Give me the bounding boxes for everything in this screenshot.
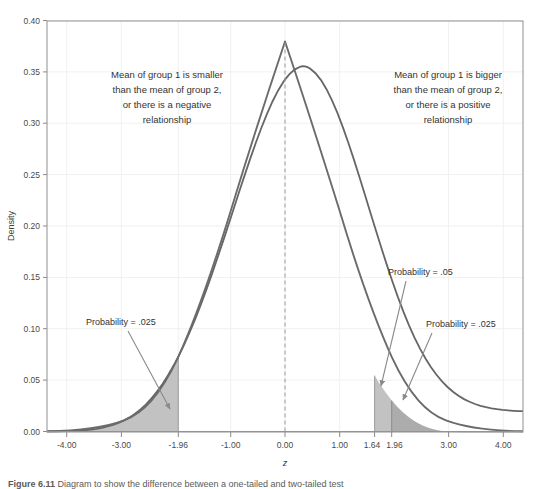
x-axis-ticks [67, 432, 504, 437]
figure-caption-text: Figure 6.11 Diagram to show the differen… [8, 479, 344, 489]
x-tick-label: 1.64 [364, 440, 381, 450]
left-annotation-line: than the mean of group 2, [113, 84, 222, 95]
y-tick-label: 0.15 [23, 272, 40, 282]
x-tick-label: -1.00 [221, 440, 241, 450]
x-axis-title: z [282, 458, 288, 468]
y-tick-label: 0.35 [23, 67, 40, 77]
caption-number: 6.11 [38, 479, 55, 489]
right-annotation-line: Mean of group 1 is bigger [394, 69, 502, 80]
x-tick-label: 1.96 [386, 440, 403, 450]
right-prob-05-label: Probability = .05 [388, 267, 453, 277]
y-tick-label: 0.20 [23, 221, 40, 231]
y-axis-title: Density [6, 210, 16, 241]
y-tick-label: 0.25 [23, 170, 40, 180]
figure-container: 0.00 0.05 0.10 0.15 0.20 0.25 0.30 0.35 … [0, 0, 544, 489]
caption-body: Diagram to show the difference between a… [58, 479, 345, 489]
right-annotation-line: than the mean of group 2, [394, 84, 503, 95]
x-tick-label: 3.00 [440, 440, 457, 450]
x-tick-label: 1.00 [331, 440, 348, 450]
y-axis-ticks [43, 21, 47, 432]
left-annotation-line: relationship [143, 114, 192, 125]
x-tick-label: 4.00 [495, 440, 512, 450]
left-annotation-line: or there is a negative [123, 99, 212, 110]
right-annotation-line: relationship [424, 114, 473, 125]
right-prob-025-label: Probability = .025 [426, 319, 496, 329]
x-tick-label: -1.96 [169, 440, 189, 450]
x-tick-label: 0.00 [277, 440, 294, 450]
y-tick-label: 0.05 [23, 375, 40, 385]
left-prob-label: Probability = .025 [86, 317, 156, 327]
caption-prefix: Figure [8, 479, 36, 489]
normal-distribution-chart: 0.00 0.05 0.10 0.15 0.20 0.25 0.30 0.35 … [0, 0, 544, 489]
x-tick-label: -4.00 [57, 440, 77, 450]
y-tick-label: 0.40 [23, 16, 40, 26]
y-tick-label: 0.00 [23, 427, 40, 437]
y-tick-label: 0.30 [23, 118, 40, 128]
left-annotation-line: Mean of group 1 is smaller [111, 69, 223, 80]
right-annotation-line: or there is a positive [405, 99, 490, 110]
figure-caption: Figure 6.11 Diagram to show the differen… [8, 479, 344, 489]
y-tick-label: 0.10 [23, 324, 40, 334]
x-tick-label: -3.00 [112, 440, 132, 450]
